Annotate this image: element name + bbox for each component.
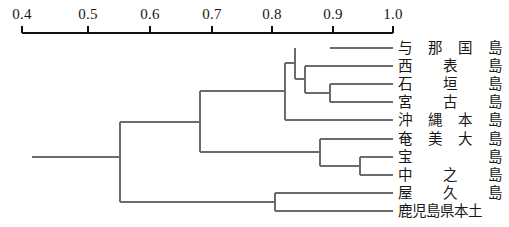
leaf-label-yonaguni: 与那国島 — [398, 41, 502, 55]
dendrogram-figure: 0.4 0.5 0.6 0.7 0.8 0.9 1.0 与那国島 西表島 石垣島… — [0, 0, 509, 227]
axis-tick-label-1: 0.5 — [66, 6, 110, 23]
axis-top — [22, 26, 393, 33]
leaf-label-okinawa: 沖縄本島 — [398, 113, 502, 127]
leaf-label-ishigaki: 石垣島 — [398, 77, 502, 91]
leaf-label-iriomote: 西表島 — [398, 59, 502, 73]
leaf-label-yakushima: 屋久島 — [398, 186, 502, 200]
leaf-label-nakanoshima: 中之島 — [398, 168, 502, 182]
axis-tick-label-5: 0.9 — [311, 6, 355, 23]
leaf-label-amami: 奄美大島 — [398, 132, 502, 146]
leaf-label-takara: 宝島 — [398, 150, 502, 164]
axis-tick-label-6: 1.0 — [371, 6, 415, 23]
axis-tick-label-3: 0.7 — [190, 6, 234, 23]
axis-tick-label-0: 0.4 — [0, 6, 44, 23]
axis-tick-label-4: 0.8 — [250, 6, 294, 23]
axis-tick-label-2: 0.6 — [128, 6, 172, 23]
leaf-label-kagoshima: 鹿児島県本土 — [398, 204, 502, 218]
dendrogram-tree — [32, 48, 393, 211]
leaf-label-miyako: 宮古島 — [398, 95, 502, 109]
